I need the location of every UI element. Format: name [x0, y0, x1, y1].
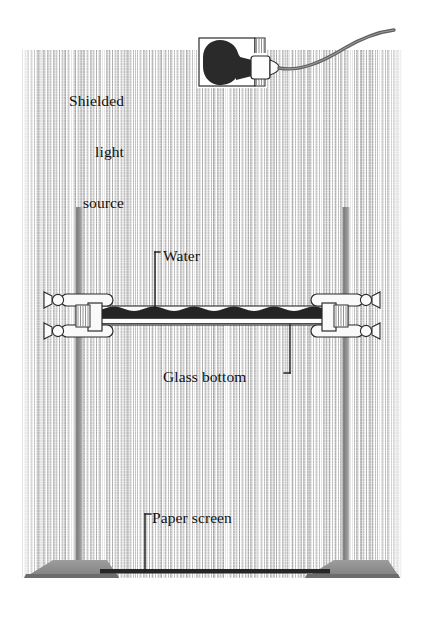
label-light-line-2: light [69, 143, 124, 160]
bulb-socket [251, 56, 279, 79]
label-paper-screen: Paper screen [152, 509, 232, 526]
figure-canvas: Shielded light source Water Glass bottom… [0, 0, 423, 620]
label-shielded-light-source: Shielded light source [69, 58, 124, 245]
right-support-stand [341, 207, 350, 562]
label-water: Water [163, 247, 200, 264]
label-light-line-1: Shielded [69, 92, 124, 109]
label-glass-bottom: Glass bottom [163, 368, 246, 385]
paper-screen-board [100, 569, 330, 574]
power-cord [279, 30, 394, 69]
label-light-line-3: source [69, 194, 124, 211]
left-support-stand [74, 207, 83, 562]
apparatus-artwork [0, 0, 423, 620]
